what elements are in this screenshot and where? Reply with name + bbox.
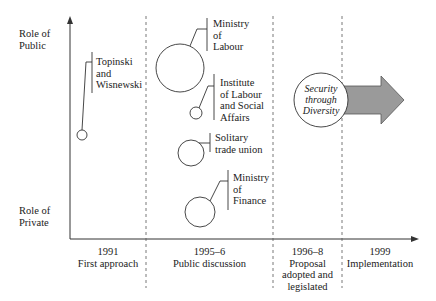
actor-label-line: of — [233, 184, 269, 196]
outcome-label-line: Security — [294, 83, 348, 94]
y-label-private: Role of Private — [19, 205, 50, 228]
phase-description: adopted and — [273, 269, 342, 281]
phase-year: 1991 — [70, 246, 146, 258]
actor-label-line: of Labour — [220, 89, 264, 101]
phase-year: 1995–6 — [146, 246, 273, 258]
phase-description: First approach — [70, 258, 146, 270]
y-label-public: Role of Public — [19, 28, 50, 51]
actor-label-line: Labour — [213, 41, 249, 53]
phase-description: legislated — [273, 281, 342, 293]
actor-label-line: Ministry — [213, 18, 249, 30]
phase-label-1999: 1999 Implementation — [342, 246, 418, 269]
actor-label-line: Finance — [233, 195, 269, 207]
actor-label-line: Affairs — [220, 112, 264, 124]
actor-label-solitary: Solitary trade union — [215, 132, 263, 155]
leader-line-ministry-labour — [190, 29, 207, 46]
y-label-public-line2: Public — [19, 40, 50, 52]
actor-label-line: of — [213, 30, 249, 42]
actor-circle-ministry-labour — [156, 44, 204, 92]
actor-circle-solitary — [178, 140, 204, 166]
actor-label-line: Wisnewski — [96, 79, 142, 91]
actor-label-ministry-finance: Ministry of Finance — [233, 172, 269, 207]
y-label-public-line1: Role of — [19, 28, 50, 40]
phase-label-1995: 1995–6 Public discussion — [146, 246, 273, 269]
actor-circle-topinski — [77, 130, 87, 140]
actor-label-institute: Institute of Labour and Social Affairs — [220, 77, 264, 123]
phase-year: 1996–8 — [273, 246, 342, 258]
leader-line-institute — [199, 86, 214, 108]
actor-label-topinski: Topinski and Wisnewski — [96, 56, 142, 91]
actor-label-line: Solitary — [215, 132, 263, 144]
y-axis-arrowhead-icon — [67, 16, 73, 24]
actor-label-line: and Social — [220, 100, 264, 112]
leader-line-ministry-finance — [210, 181, 228, 201]
y-label-private-line1: Role of — [19, 205, 50, 217]
outcome-label-line: through — [294, 94, 348, 105]
phase-label-1996: 1996–8 Proposal adopted and legislated — [273, 246, 342, 292]
phase-year: 1999 — [342, 246, 418, 258]
outcome-label-line: Diversity — [294, 105, 348, 116]
phase-label-1991: 1991 First approach — [70, 246, 146, 269]
phase-description: Implementation — [342, 258, 418, 270]
actor-circle-institute — [190, 107, 202, 119]
outcome-label: Security through Diversity — [294, 83, 348, 116]
actor-label-line: Ministry — [233, 172, 269, 184]
phase-description: Proposal — [273, 258, 342, 270]
leader-line-topinski — [82, 62, 92, 130]
actor-label-line: and — [96, 68, 142, 80]
actor-label-line: Topinski — [96, 56, 142, 68]
y-label-private-line2: Private — [19, 217, 50, 229]
actor-label-ministry-labour: Ministry of Labour — [213, 18, 249, 53]
phase-description: Public discussion — [146, 258, 273, 270]
x-axis-arrowhead-icon — [411, 236, 419, 242]
actor-label-line: trade union — [215, 144, 263, 156]
actor-circle-ministry-finance — [185, 197, 215, 227]
actor-label-line: Institute — [220, 77, 264, 89]
